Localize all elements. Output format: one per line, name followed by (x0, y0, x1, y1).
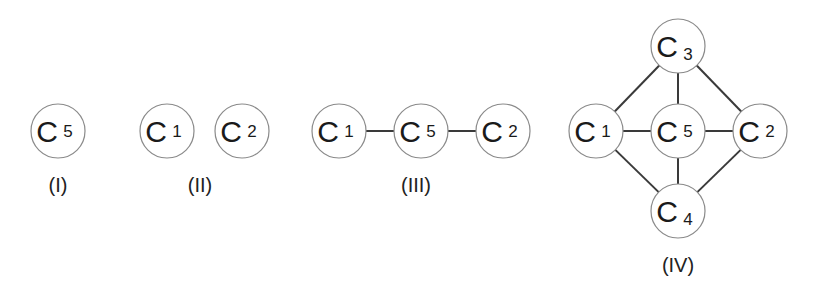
node-II-c1: C1 (140, 104, 194, 158)
edge-IV-c1-c4 (615, 150, 658, 192)
node-III-c1: C1 (312, 104, 366, 158)
panel-caption-II: (II) (188, 174, 212, 196)
node-index: 2 (247, 122, 256, 141)
node-IV-c5: C5 (651, 104, 705, 158)
node-IV-c4: C4 (651, 184, 705, 238)
node-IV-c1: C1 (569, 104, 623, 158)
node-label: C (574, 115, 596, 148)
node-IV-c3: C3 (651, 19, 705, 73)
node-II-c2: C2 (215, 104, 269, 158)
node-label: C (738, 115, 760, 148)
node-label: C (145, 115, 167, 148)
node-label: C (36, 115, 58, 148)
node-label: C (399, 115, 421, 148)
edge-IV-c3-c1 (615, 65, 660, 111)
edge-IV-c2-c4 (697, 150, 740, 192)
edge-IV-c3-c2 (697, 65, 742, 111)
nodes-layer: C5C1C2C1C5C2C3C1C5C2C4 (31, 19, 787, 238)
node-III-c2: C2 (476, 104, 530, 158)
node-III-c5: C5 (394, 104, 448, 158)
cluster-graph-diagram: C5C1C2C1C5C2C3C1C5C2C4 (I)(II)(III)(IV) (0, 0, 816, 289)
node-index: 1 (601, 122, 610, 141)
node-index: 4 (683, 210, 692, 229)
panel-caption-I: (I) (49, 174, 68, 196)
node-label: C (656, 30, 678, 63)
panel-caption-IV: (IV) (662, 254, 694, 276)
node-IV-c2: C2 (733, 104, 787, 158)
captions-layer: (I)(II)(III)(IV) (49, 174, 695, 276)
node-index: 2 (508, 122, 517, 141)
node-label: C (220, 115, 242, 148)
node-index: 5 (426, 122, 435, 141)
node-index: 1 (172, 122, 181, 141)
node-label: C (656, 195, 678, 228)
node-label: C (317, 115, 339, 148)
node-index: 3 (683, 45, 692, 64)
node-I-c5: C5 (31, 104, 85, 158)
node-label: C (656, 115, 678, 148)
node-index: 5 (63, 122, 72, 141)
node-label: C (481, 115, 503, 148)
node-index: 5 (683, 122, 692, 141)
panel-caption-III: (III) (401, 174, 431, 196)
node-index: 2 (765, 122, 774, 141)
node-index: 1 (344, 122, 353, 141)
